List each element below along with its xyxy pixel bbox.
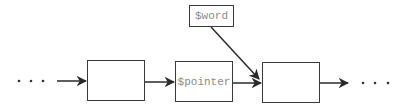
- word-variable-box: $word: [189, 5, 234, 27]
- node-2-pointer: $pointer: [175, 61, 233, 102]
- node-1: [87, 60, 145, 101]
- node-2-label: $pointer: [178, 76, 231, 88]
- ellipsis-right-icon: [362, 82, 390, 85]
- node-3: [262, 62, 320, 103]
- ellipsis-left-icon: [18, 80, 45, 83]
- word-label: $word: [195, 10, 228, 22]
